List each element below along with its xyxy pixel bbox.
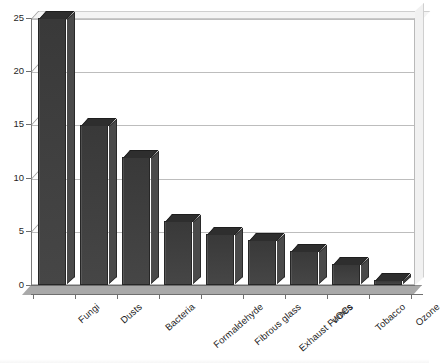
x-label-vocs: VOCs	[328, 301, 355, 326]
x-label-fungi: Fungi	[76, 301, 102, 325]
x-label-bacteria: Bacteria	[163, 301, 197, 333]
x-label-ozone: Ozone	[413, 301, 442, 328]
x-label-tobacco: Tobacco	[373, 301, 407, 333]
x-label-dusts: Dusts	[118, 301, 144, 326]
